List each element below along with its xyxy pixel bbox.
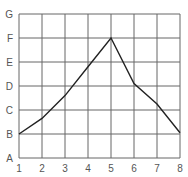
x-tick-label: 8 <box>177 163 183 174</box>
y-axis-tick-labels: ABCDEFG <box>5 9 13 164</box>
y-tick-label: F <box>7 33 13 44</box>
x-tick-label: 2 <box>39 163 45 174</box>
y-tick-label: B <box>6 129 13 140</box>
x-tick-label: 1 <box>16 163 22 174</box>
x-tick-label: 4 <box>85 163 91 174</box>
x-tick-label: 3 <box>62 163 68 174</box>
y-tick-label: G <box>5 9 13 20</box>
x-tick-label: 6 <box>131 163 137 174</box>
y-tick-label: D <box>6 81 13 92</box>
x-axis-tick-labels: 12345678 <box>16 163 183 174</box>
x-tick-label: 7 <box>154 163 160 174</box>
chart-grid <box>19 14 180 158</box>
x-tick-label: 5 <box>108 163 114 174</box>
line-chart: ABCDEFG 12345678 <box>0 0 188 177</box>
y-tick-label: E <box>6 57 13 68</box>
y-tick-label: C <box>6 105 13 116</box>
y-tick-label: A <box>6 153 13 164</box>
